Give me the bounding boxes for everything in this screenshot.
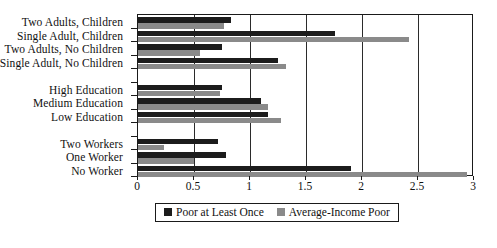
legend-label-1: Average-Income Poor bbox=[289, 206, 390, 218]
x-tick-label: 0.5 bbox=[178, 180, 208, 192]
square-dark-icon bbox=[164, 208, 172, 216]
x-tick-label: 1.5 bbox=[290, 180, 320, 192]
legend-item-0: Poor at Least Once bbox=[164, 206, 264, 218]
y-tick bbox=[131, 176, 137, 177]
x-tick-label: 2 bbox=[346, 180, 376, 192]
y-tick bbox=[131, 95, 137, 96]
category-label: No Worker bbox=[71, 163, 123, 179]
y-tick bbox=[131, 28, 137, 29]
square-gray-icon bbox=[277, 208, 285, 216]
bar bbox=[138, 166, 351, 172]
x-tick-label: 1 bbox=[234, 180, 264, 192]
legend-item-1: Average-Income Poor bbox=[277, 206, 390, 218]
bar bbox=[138, 17, 231, 23]
y-tick bbox=[131, 41, 137, 42]
y-tick bbox=[131, 55, 137, 56]
bar bbox=[138, 31, 335, 37]
y-tick bbox=[131, 68, 137, 69]
category-label: Single Adult, No Children bbox=[0, 55, 123, 71]
bar bbox=[138, 58, 278, 64]
category-axis-labels: Two Adults, ChildrenSingle Adult, Childr… bbox=[0, 14, 131, 176]
y-tick bbox=[131, 82, 137, 83]
x-tick-label: 2.5 bbox=[402, 180, 432, 192]
legend-label-0: Poor at Least Once bbox=[176, 206, 264, 218]
y-tick bbox=[131, 163, 137, 164]
chart-legend: Poor at Least Once Average-Income Poor bbox=[155, 203, 399, 222]
bar bbox=[138, 112, 268, 118]
bar-chart: Two Adults, ChildrenSingle Adult, Childr… bbox=[0, 0, 497, 248]
category-label: Low Education bbox=[51, 109, 123, 125]
y-tick bbox=[131, 136, 137, 137]
x-tick-label: 0 bbox=[122, 180, 152, 192]
x-axis-tick-labels: 00.511.522.53 bbox=[0, 180, 497, 196]
bar bbox=[138, 98, 261, 104]
bar bbox=[138, 152, 226, 158]
x-tick-label: 3 bbox=[458, 180, 488, 192]
bar bbox=[138, 44, 222, 50]
y-tick bbox=[131, 149, 137, 150]
y-tick bbox=[131, 122, 137, 123]
plot-area bbox=[137, 14, 473, 176]
bar bbox=[138, 85, 222, 91]
y-tick bbox=[131, 109, 137, 110]
bar bbox=[138, 139, 218, 145]
